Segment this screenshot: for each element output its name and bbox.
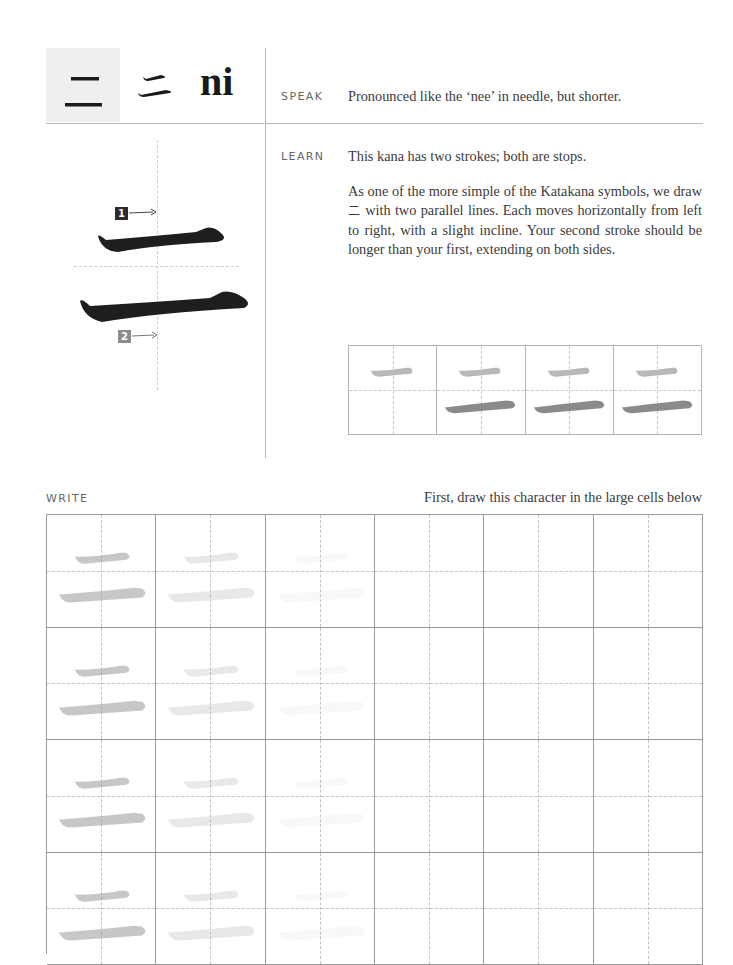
trace-guide-kana-icon (156, 740, 264, 852)
practice-cell[interactable] (375, 628, 484, 741)
stroke-1-shape-icon (349, 346, 436, 434)
practice-cell[interactable] (594, 515, 703, 628)
practice-row (47, 740, 703, 853)
header-divider (46, 123, 264, 124)
write-label: WRITE (46, 492, 88, 505)
practice-cell[interactable] (156, 515, 265, 628)
practice-row (47, 515, 703, 628)
trace-guide-kana-icon (47, 628, 155, 740)
stroke-2-badge: 2 (118, 330, 131, 343)
column-divider (265, 48, 266, 458)
practice-cell[interactable] (156, 628, 265, 741)
stroke-sequence-cell-1 (349, 346, 437, 434)
practice-cell[interactable] (484, 515, 593, 628)
strokes-1-2-shape-icon (614, 346, 701, 434)
trace-guide-kana-icon (47, 740, 155, 852)
trace-guide-kana-icon (266, 628, 374, 740)
trace-guide-kana-icon (266, 853, 374, 965)
trace-guide-kana-icon (156, 853, 264, 965)
practice-cell[interactable] (375, 853, 484, 965)
learn-label: LEARN (281, 150, 324, 163)
practice-cell[interactable] (47, 740, 156, 853)
practice-cell[interactable] (594, 853, 703, 965)
stroke-sequence-cell-2 (437, 346, 525, 434)
practice-cell[interactable] (47, 515, 156, 628)
practice-cell[interactable] (266, 515, 375, 628)
write-hint: First, draw this character in the large … (424, 489, 702, 506)
learn-summary: This kana has two strokes; both are stop… (348, 147, 586, 166)
stroke-sequence-cell-3 (526, 346, 614, 434)
learn-description: As one of the more simple of the Katakan… (348, 182, 702, 259)
practice-cell[interactable] (484, 628, 593, 741)
speak-divider (265, 123, 703, 124)
practice-cell[interactable] (47, 853, 156, 965)
practice-cell[interactable] (375, 740, 484, 853)
kana-ni-stroke-shapes (46, 130, 261, 460)
trace-guide-kana-icon (47, 853, 155, 965)
trace-guide-kana-icon (47, 515, 155, 627)
stroke-sequence-cell-4 (614, 346, 701, 434)
strokes-1-2-shape-icon (437, 346, 524, 434)
practice-cell[interactable] (156, 740, 265, 853)
learn-description-part-1: As one of the more simple of the Katakan… (348, 183, 702, 199)
speak-text: Pronounced like the ‘nee’ in needle, but… (348, 87, 621, 106)
trace-guide-kana-icon (266, 515, 374, 627)
trace-guide-kana-icon (156, 628, 264, 740)
stroke-sequence-grid (348, 345, 702, 435)
kana-brush-glyph (130, 60, 180, 110)
strokes-1-2-shape-icon (526, 346, 613, 434)
practice-cell[interactable] (266, 853, 375, 965)
practice-cell[interactable] (266, 628, 375, 741)
speak-label: SPEAK (281, 90, 323, 103)
learn-description-part-2: with two parallel lines. Each moves hori… (348, 202, 702, 257)
romaji-label: ni (200, 46, 233, 118)
practice-cell[interactable] (375, 515, 484, 628)
practice-cell[interactable] (266, 740, 375, 853)
practice-cell[interactable] (156, 853, 265, 965)
stroke-order-diagram: 1 2 (46, 130, 261, 460)
practice-cell[interactable] (484, 853, 593, 965)
practice-cell[interactable] (594, 740, 703, 853)
kana-ni-brush-icon (130, 60, 180, 110)
practice-cell[interactable] (484, 740, 593, 853)
practice-row (47, 628, 703, 741)
inline-kana-glyph: 二 (348, 204, 361, 218)
practice-row (47, 853, 703, 965)
kana-ni-print-icon (46, 48, 120, 122)
kana-print-glyph-box (46, 48, 120, 122)
trace-guide-kana-icon (266, 740, 374, 852)
stroke-2-arrow-icon (132, 330, 162, 340)
practice-grid (46, 514, 703, 954)
practice-cell[interactable] (47, 628, 156, 741)
practice-cell[interactable] (594, 628, 703, 741)
trace-guide-kana-icon (156, 515, 264, 627)
